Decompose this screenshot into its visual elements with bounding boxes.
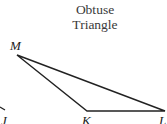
partial-label-j: J [1, 114, 7, 124]
vertex-label-l: L [159, 114, 166, 124]
partial-arrow-edge [0, 107, 5, 110]
triangle-mkl [17, 55, 165, 111]
vertex-label-m: M [10, 39, 21, 52]
obtuse-triangle-figure [0, 0, 167, 124]
vertex-label-k: K [82, 114, 91, 124]
